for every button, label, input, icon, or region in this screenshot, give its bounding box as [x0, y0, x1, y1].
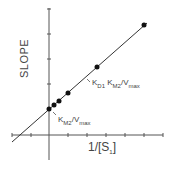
- ann-sub2: M2: [113, 83, 121, 89]
- ann-max: max: [79, 120, 90, 126]
- y-axis-label: SLOPE: [18, 39, 30, 78]
- ann-sub1: D1: [97, 83, 105, 89]
- intercept-leader: [53, 112, 56, 115]
- ann-k2: K: [105, 78, 113, 87]
- ann-max: max: [128, 83, 139, 89]
- slope-leader: [87, 79, 90, 82]
- x-axis-label: 1/[S1]: [88, 140, 116, 155]
- intercept-annotation: KM2/Vmax: [58, 115, 91, 126]
- ann-sub: M2: [63, 120, 71, 126]
- x-label-text: 1/[S: [88, 140, 109, 154]
- chart-canvas: [0, 0, 170, 170]
- slope-annotation: KD1 KM2/Vmax: [92, 78, 140, 89]
- x-label-close: ]: [113, 140, 116, 154]
